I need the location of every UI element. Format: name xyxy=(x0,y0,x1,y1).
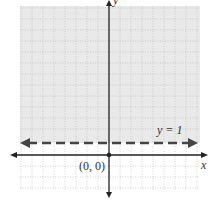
boundary-equation-label: y = 1 xyxy=(156,123,182,137)
y-axis-arrow-down-icon xyxy=(106,192,112,198)
x-axis-label: x xyxy=(200,158,207,172)
origin-label: (0, 0) xyxy=(79,159,105,173)
origin-point xyxy=(107,153,112,158)
y-axis-arrow-up-icon xyxy=(106,0,112,6)
x-axis-arrow-left-icon xyxy=(10,152,17,158)
y-axis-label: y xyxy=(112,0,119,7)
coordinate-plane: y x y = 1 (0, 0) xyxy=(0,0,221,208)
